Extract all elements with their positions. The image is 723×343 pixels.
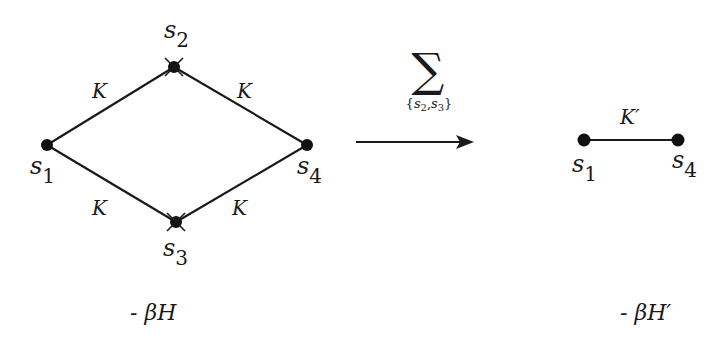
node-s3-summed [167,213,185,231]
right-arrow-icon [356,135,474,149]
edge-label-s1-s3: K [91,196,108,220]
edge-label-s2-s4: K [236,79,253,103]
summation-subscript: {s2,s3} [406,96,453,113]
edge-s1-s2 [47,67,174,145]
edge-s1-s3 [47,145,176,222]
node-s4 [301,139,313,151]
decimation-diagram: s2 s1 s4 s3 K K K K - βH ∑ {s2,s3} [0,0,723,343]
label-s1: s1 [30,152,55,188]
label-s4-renormalized: s4 [672,146,697,182]
edge-label-s1-s2: K [91,79,108,103]
decimation-transform: ∑ {s2,s3} [356,43,474,149]
summation-icon: ∑ [412,43,445,97]
label-s3: s3 [163,234,188,270]
label-s4: s4 [297,152,322,188]
edge-label-k-prime: K′ [619,105,640,129]
right-graph: K′ s1 s4 - βH′ [572,105,697,325]
left-graph: s2 s1 s4 s3 K K K K - βH [30,16,322,325]
node-s1-renormalized [578,134,591,147]
node-s4-renormalized [672,134,685,147]
node-s2-summed [165,58,183,76]
node-s1 [41,139,53,151]
caption-left-hamiltonian: - βH [130,300,177,325]
label-s2: s2 [164,16,189,52]
label-s1-renormalized: s1 [572,150,597,186]
caption-right-hamiltonian: - βH′ [620,300,671,325]
edge-label-s3-s4: K [231,196,248,220]
